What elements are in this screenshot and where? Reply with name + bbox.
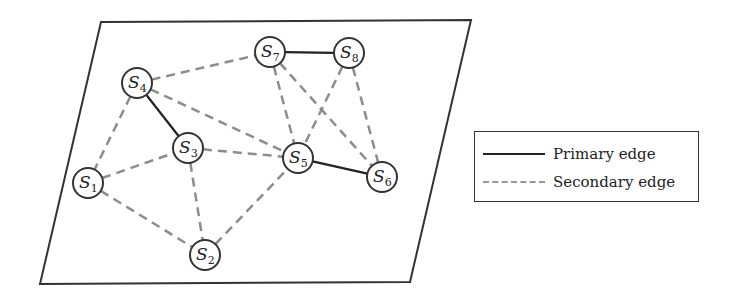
secondary-edge-s3-s2 [190, 163, 202, 240]
secondary-edge-s3-s5 [203, 149, 283, 156]
primary-edge-s7-s8 [285, 52, 334, 53]
legend-label-secondary: Secondary edge [553, 173, 675, 191]
node-s4: S4 [122, 68, 152, 98]
secondary-edge-s2-s5 [215, 169, 287, 244]
secondary-edge-s4-s1 [95, 96, 131, 169]
node-s6: S6 [367, 162, 397, 192]
deployment-plane [40, 20, 471, 284]
secondary-edge-s7-s5 [274, 67, 294, 144]
node-s2: S2 [190, 240, 220, 270]
dashed-line-icon [483, 181, 545, 183]
node-s8: S8 [334, 38, 364, 68]
legend-label-primary: Primary edge [553, 145, 656, 163]
secondary-edge-s8-s5 [305, 66, 343, 144]
solid-line-icon [483, 153, 545, 155]
secondary-edge-s4-s5 [151, 89, 285, 151]
secondary-edge-s1-s2 [101, 191, 192, 247]
node-s7: S7 [255, 37, 285, 67]
node-s3: S3 [173, 133, 203, 163]
secondary-edge-s8-s6 [353, 67, 378, 162]
primary-edge-s5-s6 [313, 161, 368, 173]
legend-item-primary: Primary edge [483, 142, 656, 166]
primary-edge-s4-s3 [146, 95, 178, 136]
legend: Primary edge Secondary edge [474, 131, 699, 202]
secondary-edge-s4-s7 [152, 55, 256, 79]
node-s5: S5 [283, 143, 313, 173]
node-s1: S1 [73, 168, 103, 198]
secondary-edge-s1-s3 [102, 153, 174, 178]
legend-item-secondary: Secondary edge [483, 170, 675, 194]
